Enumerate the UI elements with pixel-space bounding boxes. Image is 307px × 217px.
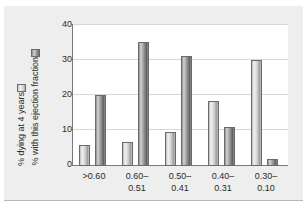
x-tick-label-1: 0.60– 0.51 xyxy=(114,170,160,194)
bar-group-4 xyxy=(245,24,288,166)
legend-item-dying-at-4-years: % dying at 4 years xyxy=(16,82,26,166)
y-tick-label: 20 xyxy=(48,90,72,99)
x-tick-label-3: 0.40– 0.31 xyxy=(200,170,246,194)
chart-panel: % dying at 4 years % with this ejection … xyxy=(4,6,303,201)
x-axis-labels: >0.60 0.60– 0.51 0.50– 0.41 0.40– 0.31 0… xyxy=(73,170,288,204)
bar-dying-at-4-years xyxy=(79,145,90,166)
x-tick-line2: 0.51 xyxy=(114,182,160,194)
x-tick-label-4: 0.30– 0.10 xyxy=(243,170,289,194)
x-tick-line1: 0.40– xyxy=(200,170,246,182)
y-tick-label: 40 xyxy=(48,20,72,29)
bar-group-0 xyxy=(73,24,116,166)
y-axis: 40 30 20 10 0 xyxy=(40,24,72,167)
bar-with-this-ejection-fraction xyxy=(224,127,235,166)
bar-dying-at-4-years xyxy=(208,101,219,166)
y-tick-label: 30 xyxy=(48,55,72,64)
x-tick-label-2: 0.50– 0.41 xyxy=(157,170,203,194)
legend-label: % with this ejection fraction xyxy=(30,57,40,166)
legend-item-with-this-ejection-fraction: % with this ejection fraction xyxy=(30,47,40,166)
x-tick-line1: 0.50– xyxy=(157,170,203,182)
x-tick-line2: 0.41 xyxy=(157,182,203,194)
bar-with-this-ejection-fraction xyxy=(181,56,192,166)
y-tick-label: 0 xyxy=(48,160,72,169)
bar-dying-at-4-years xyxy=(122,142,133,166)
bar-group-3 xyxy=(202,24,245,166)
bar-with-this-ejection-fraction xyxy=(95,95,106,166)
bar-group-1 xyxy=(116,24,159,166)
bar-dying-at-4-years xyxy=(165,132,176,166)
x-tick-line1: >0.60 xyxy=(71,170,117,182)
legend-label: % dying at 4 years xyxy=(16,92,26,166)
x-tick-line1: 0.30– xyxy=(243,170,289,182)
x-tick-label-0: >0.60 xyxy=(71,170,117,182)
bar-dying-at-4-years xyxy=(251,60,262,166)
chart-figure: % dying at 4 years % with this ejection … xyxy=(0,0,307,217)
bar-group-2 xyxy=(159,24,202,166)
x-tick-line1: 0.60– xyxy=(114,170,160,182)
bar-series-container xyxy=(73,24,288,166)
y-tick-label: 10 xyxy=(48,125,72,134)
bar-with-this-ejection-fraction xyxy=(267,159,278,166)
light-gray-swatch-icon xyxy=(17,84,26,92)
bar-with-this-ejection-fraction xyxy=(138,42,149,166)
x-tick-line2: 0.10 xyxy=(243,182,289,194)
x-tick-line2: 0.31 xyxy=(200,182,246,194)
